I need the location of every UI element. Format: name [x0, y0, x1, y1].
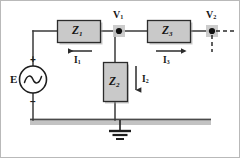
source-plus-sign: +	[30, 55, 36, 65]
circuit-diagram-figure: Z1 Z2 Z3 I1 I2 I3 V1 V2 E + −	[0, 0, 240, 158]
impedance-Z1-label: Z1	[72, 25, 83, 38]
source-minus-sign: −	[30, 97, 36, 107]
circuit-schematic-canvas	[0, 0, 240, 158]
impedance-Z3-label: Z3	[162, 25, 173, 38]
source-label-E: E	[10, 74, 17, 85]
impedance-Z2-label: Z2	[109, 76, 120, 89]
node-label-V1: V1	[113, 10, 123, 21]
node-V2	[206, 25, 236, 52]
current-label-I2: I2	[142, 75, 149, 85]
node-label-V2: V2	[206, 10, 216, 21]
node-V1	[113, 25, 125, 37]
ac-voltage-source-symbol	[20, 66, 47, 93]
current-label-I1: I1	[74, 56, 81, 66]
current-label-I3: I3	[163, 56, 170, 66]
